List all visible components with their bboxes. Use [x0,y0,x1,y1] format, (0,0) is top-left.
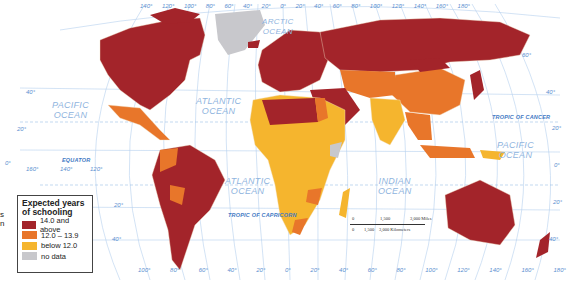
legend-swatch-high [22,221,36,229]
australia [445,180,515,245]
lon-label: 100° [138,267,150,273]
lat-label: 0° [554,162,560,168]
lat-label: 40° [26,89,35,95]
lon-label: 40° [228,267,237,273]
legend-label: 12.0 – 13.9 [41,231,79,240]
lat-label: 20° [552,125,561,131]
equator-label: EQUATOR [62,157,90,163]
lon-label: 100° [184,3,196,9]
legend-label: no data [41,252,66,261]
ocean-label-atlantic-north: ATLANTIC OCEAN [196,96,241,116]
north-america [100,18,205,110]
ocean-label-pacific-west: PACIFIC OCEAN [52,100,89,120]
tropic-capricorn-label: TROPIC OF CAPRICORN [228,212,297,218]
lon-label: 140° [60,166,72,172]
lon-label: 140° [489,267,501,273]
scale-km-1: 1,500 [364,227,374,232]
lon-label: 40° [339,267,348,273]
lon-label: 80° [351,3,360,9]
lon-label: 160° [521,267,533,273]
lon-label: 80° [170,267,179,273]
lon-label: 120° [457,267,469,273]
lon-label: 20° [262,3,271,9]
legend-swatch-mid [22,231,37,239]
lon-label: 0° [280,3,286,9]
map-legend: Expected years of schooling 14.0 and abo… [17,195,93,273]
lon-label: 160° [436,3,448,9]
legend-swatch-nodata [22,252,37,260]
lon-label: 180° [553,267,565,273]
tropic-cancer-label: TROPIC OF CANCER [492,114,550,120]
cropped-char: s [0,210,4,219]
lat-label: 0° [5,160,11,166]
lat-label: 20° [553,199,562,205]
ocean-label-arctic: ARCTIC OCEAN [262,17,294,37]
legend-swatch-low [22,242,37,250]
lon-label: 60° [368,267,377,273]
greenland [215,10,265,55]
legend-item-nodata: no data [22,252,88,262]
lat-label: 40° [546,89,555,95]
ocean-label-pacific-east: PACIFIC OCEAN [497,140,534,160]
lon-label: 120° [90,166,102,172]
scale-miles-2: 3,000 Miles [410,216,432,221]
cropped-caption-text: s n [0,210,4,228]
lon-label: 40° [243,3,252,9]
ocean-label-indian: INDIAN OCEAN [378,176,412,196]
cropped-char: n [0,219,4,228]
lon-label: 140° [414,3,426,9]
lon-label: 20° [256,267,265,273]
lon-label: 160° [26,166,38,172]
lon-label: 100° [370,3,382,9]
lon-label: 180° [458,3,470,9]
lon-label: 60° [199,267,208,273]
lat-label: 20° [17,126,26,132]
lon-label: 20° [310,267,319,273]
legend-title: Expected years of schooling [22,199,88,217]
scale-miles-0: 0 [352,216,354,221]
scale-km-0: 0 [352,227,354,232]
lon-label: 0° [285,267,291,273]
lon-label: 140° [140,3,152,9]
lon-label: 120° [162,3,174,9]
scale-bar: 0 1,500 3,000 Miles 0 1,500 3,000 Kilome… [350,216,430,236]
lon-label: 40° [314,3,323,9]
top-longitude-labels: 140° 120° 100° 80° 60° 40° 20° 0° 20° 40… [140,3,470,9]
bottom-longitude-labels: 100° 80° 60° 40° 20° 0° 20° 40° 60° 80° … [138,267,566,273]
scale-miles-1: 1,500 [380,216,390,221]
legend-item-low: below 12.0 [22,241,88,251]
ocean-label-atlantic-south: ATLANTIC OCEAN [225,176,270,196]
legend-label: below 12.0 [41,241,77,250]
lon-label: 80° [396,267,405,273]
legend-item-high: 14.0 and above [22,220,88,230]
lon-label: 60° [333,3,342,9]
lon-label: 60° [224,3,233,9]
lat-label: 60° [522,52,531,58]
legend-item-mid: 12.0 – 13.9 [22,231,88,241]
lat-label: 20° [114,202,123,208]
china [392,68,465,115]
lon-label: 100° [425,267,437,273]
lon-label: 20° [295,3,304,9]
lat-label: 40° [549,236,558,242]
lon-label: 80° [206,3,215,9]
lon-label: 120° [392,3,404,9]
europe [258,30,330,92]
mexico [108,105,170,140]
scale-km-2: 3,000 Kilometers [379,227,410,232]
lat-label: 40° [112,236,121,242]
